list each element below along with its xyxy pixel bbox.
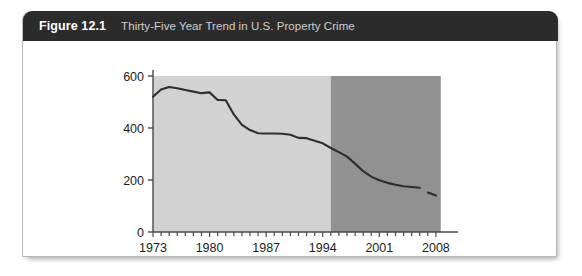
chart-plot-region: 0200400600197319801987199420012008 <box>23 41 558 256</box>
dark-band <box>331 76 441 232</box>
figure-header-bar: Figure 12.1 Thirty-Five Year Trend in U.… <box>23 11 558 41</box>
figure-card: Figure 12.1 Thirty-Five Year Trend in U.… <box>22 11 557 257</box>
y-tick-label: 400 <box>123 122 144 136</box>
x-tick-label: 1987 <box>252 241 280 255</box>
x-tick-label: 1994 <box>309 241 337 255</box>
x-tick-label: 2008 <box>422 241 450 255</box>
y-tick-label: 600 <box>123 70 144 84</box>
x-tick-label: 2001 <box>365 241 393 255</box>
light-band <box>153 76 331 232</box>
figure-title: Thirty-Five Year Trend in U.S. Property … <box>121 20 355 32</box>
x-tick-label: 1980 <box>196 241 224 255</box>
x-tick-label: 1973 <box>139 241 167 255</box>
y-tick-label: 200 <box>123 174 144 188</box>
property-crime-line-chart: 0200400600197319801987199420012008 <box>23 41 558 256</box>
shaded-bands-group <box>153 76 441 232</box>
y-tick-label: 0 <box>137 226 144 240</box>
figure-label: Figure 12.1 <box>39 19 106 33</box>
